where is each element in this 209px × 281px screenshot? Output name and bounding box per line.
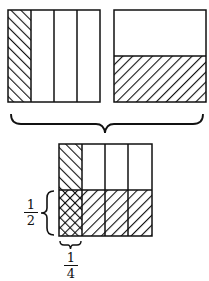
combined-square [59,144,152,236]
shaded-quarter [8,10,31,102]
half-numerator: 1 [24,198,38,211]
shaded-half [114,56,206,102]
half-denominator: 2 [24,214,38,227]
label-one-quarter: 1 4 [64,251,78,280]
quarter-denominator: 4 [64,267,78,280]
overlap-cell [59,190,82,236]
quarter-brace [60,241,81,249]
quarter-numerator: 1 [64,251,78,264]
top-right-square [114,10,206,102]
half-brace [41,191,54,235]
combining-brace [11,114,203,133]
top-left-square [8,10,100,102]
label-one-half: 1 2 [24,198,38,227]
